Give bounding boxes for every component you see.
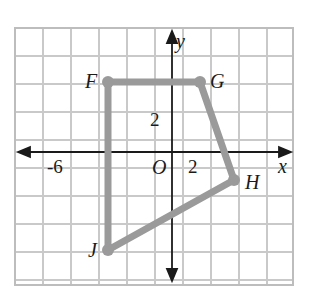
y-axis-label: y — [176, 31, 185, 51]
vertex-dot-g — [194, 76, 206, 88]
vertex-label-G: G — [210, 71, 224, 91]
y-tick-label-2: 2 — [150, 110, 160, 129]
x-tick-label-neg6: -6 — [47, 157, 63, 176]
y-axis-arrow-down — [167, 269, 177, 281]
vertex-dots — [102, 76, 240, 256]
x-tick-label-2: 2 — [188, 157, 198, 176]
vertex-label-J: J — [88, 240, 97, 260]
coordinate-plane-svg — [0, 0, 309, 300]
vertex-label-F: F — [85, 71, 97, 91]
vertex-dot-f — [102, 76, 114, 88]
vertex-dot-j — [102, 244, 114, 256]
vertex-label-H: H — [245, 172, 259, 192]
x-axis-label: x — [278, 156, 287, 176]
figure-canvas: F G H J y x O -6 2 2 — [0, 0, 309, 300]
vertex-dot-h — [228, 174, 240, 186]
origin-label: O — [152, 157, 166, 177]
x-axis-arrow-left — [18, 147, 30, 157]
